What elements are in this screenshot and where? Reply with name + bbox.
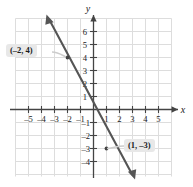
x-axis-label: x xyxy=(180,104,186,115)
y-tick-label: –4 xyxy=(80,157,90,167)
x-tick-label: –2 xyxy=(62,114,72,124)
x-tick-label: 3 xyxy=(130,114,134,124)
x-tick-label: 2 xyxy=(117,114,121,124)
graph-canvas: –5 –4 –3 –2 –1 1 2 3 4 5 6 5 4 3 2 1 –1 … xyxy=(0,0,193,187)
y-tick-label: –1 xyxy=(80,118,90,128)
x-tick-label: –5 xyxy=(23,114,33,124)
y-tick-label: 5 xyxy=(83,40,87,50)
x-tick-label: 4 xyxy=(143,114,148,124)
x-tick-label: –4 xyxy=(36,114,46,124)
y-tick-label: –3 xyxy=(80,144,90,154)
y-tick-label: 4 xyxy=(83,53,88,63)
y-tick-label: 1 xyxy=(83,92,87,102)
annotation-point-b: (1, –3) xyxy=(124,139,155,152)
coordinate-plane-figure: –5 –4 –3 –2 –1 1 2 3 4 5 6 5 4 3 2 1 –1 … xyxy=(0,0,193,187)
annotation-point-a: (–2, 4) xyxy=(6,44,37,57)
y-axis-label: y xyxy=(85,3,91,14)
y-tick-label: 6 xyxy=(83,27,88,37)
y-tick-label: –2 xyxy=(80,131,90,141)
x-tick-label: 5 xyxy=(156,114,160,124)
y-tick-label: 3 xyxy=(83,66,87,76)
x-tick-label: –3 xyxy=(49,114,59,124)
